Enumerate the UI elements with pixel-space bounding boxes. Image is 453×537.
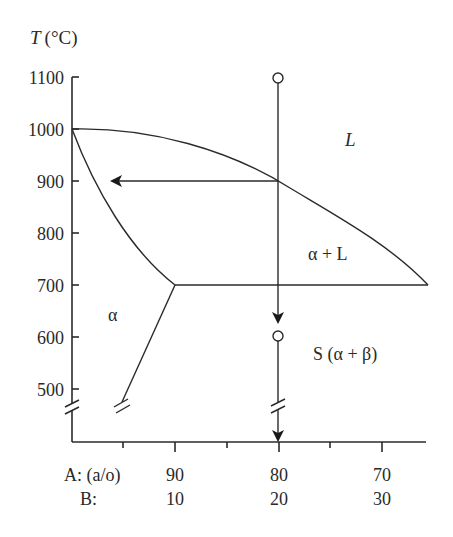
y-tick-labels: 1100 1000 900 800 700 600 500 [28, 68, 64, 400]
cooling-path [112, 73, 285, 440]
x-tick-a-80: 80 [270, 465, 288, 485]
solvus-break-mark [114, 399, 128, 407]
x-axis [72, 442, 426, 452]
y-tick-800: 800 [37, 224, 64, 244]
liquidus-curve [72, 129, 428, 285]
y-axis [65, 77, 79, 442]
region-alpha-plus-liquid: α + L [308, 244, 348, 264]
end-point-marker [273, 331, 283, 341]
x-tick-a-70: 70 [373, 465, 391, 485]
x-tick-b-30: 30 [373, 489, 391, 509]
y-tick-500: 500 [37, 380, 64, 400]
region-alpha: α [108, 305, 118, 325]
y-tick-600: 600 [37, 328, 64, 348]
y-tick-1000: 1000 [28, 120, 64, 140]
start-point-marker [273, 73, 283, 83]
phase-boundaries [72, 129, 428, 413]
phase-diagram: T(°C) 1100 1000 900 800 700 600 500 [0, 0, 453, 537]
solvus-break-mark [116, 405, 130, 413]
x-tick-b-20: 20 [270, 489, 288, 509]
region-labels: L α + L α S (α + β) [108, 129, 377, 365]
y-axis-title: T(°C) [30, 27, 78, 49]
x-row-b-label: B: [80, 489, 97, 509]
y-tick-700: 700 [37, 276, 64, 296]
x-row-a-label: A: (a/o) [64, 465, 120, 486]
region-solid: S (α + β) [313, 344, 377, 365]
solidus-curve [72, 129, 175, 285]
x-tick-a-90: 90 [166, 465, 184, 485]
x-tick-labels: A: (a/o) 90 80 70 B: 10 20 30 [64, 465, 391, 509]
y-tick-900: 900 [37, 172, 64, 192]
y-tick-1100: 1100 [29, 68, 64, 88]
region-liquid: L [344, 129, 356, 150]
x-tick-b-10: 10 [166, 489, 184, 509]
solvus-line [122, 285, 175, 402]
